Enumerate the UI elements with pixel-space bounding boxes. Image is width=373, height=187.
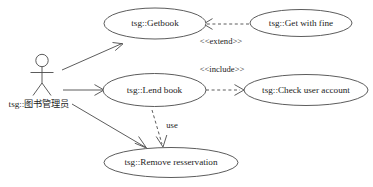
association-actor-to-getbook[interactable] <box>62 43 123 71</box>
actor-label: tsg::图书管理员 <box>9 98 70 109</box>
use-case-remove-reservation[interactable]: tsg::Remove resservation <box>104 148 238 178</box>
actor-head-icon <box>36 54 48 66</box>
use-case-getbook[interactable]: tsg::Getbook <box>104 8 206 39</box>
association-actor-to-remove-reservation[interactable] <box>72 104 147 148</box>
use-case-get-with-fine-label: tsg::Get with fine <box>269 18 333 28</box>
use-label: use <box>166 120 178 130</box>
relationship-extend[interactable]: <<extend>> <box>200 19 249 46</box>
actor-leg-left-icon <box>33 83 42 96</box>
use-case-get-with-fine[interactable]: tsg::Get with fine <box>250 10 352 37</box>
actor-librarian[interactable]: tsg::图书管理员 <box>9 54 70 108</box>
actor-leg-right-icon <box>42 83 51 96</box>
use-line <box>152 110 162 144</box>
use-case-check-user-account-label: tsg::Check user account <box>262 85 350 95</box>
use-case-lend-book-label: tsg::Lend book <box>127 85 183 95</box>
assoc-remove-line <box>72 104 145 147</box>
use-case-getbook-label: tsg::Getbook <box>131 18 179 28</box>
diagram-canvas: tsg::图书管理员 <<extend>> <<include>> <box>0 0 373 187</box>
include-stereotype-label: <<include>> <box>200 64 245 74</box>
use-case-remove-reservation-label: tsg::Remove resservation <box>124 157 218 167</box>
association-actor-to-lend-book[interactable] <box>63 85 104 96</box>
extend-stereotype-label: <<extend>> <box>200 36 242 46</box>
relationship-use[interactable]: use <box>152 110 178 147</box>
use-arrowhead-icon <box>156 135 167 147</box>
use-case-check-user-account[interactable]: tsg::Check user account <box>244 75 368 106</box>
use-case-lend-book[interactable]: tsg::Lend book <box>103 74 206 107</box>
uml-use-case-diagram: tsg::图书管理员 <<extend>> <<include>> <box>0 0 373 187</box>
assoc-getbook-line <box>62 44 122 71</box>
